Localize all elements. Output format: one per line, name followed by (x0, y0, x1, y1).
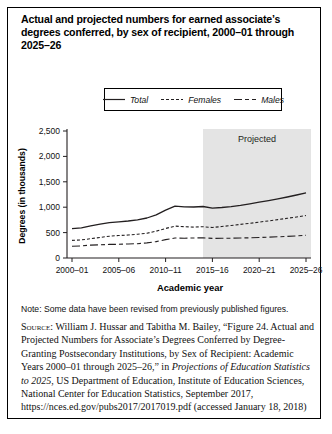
females-line-icon (160, 96, 184, 103)
figure-border: Actual and projected numbers for earned … (7, 7, 321, 419)
legend-label-total: Total (130, 95, 148, 105)
legend-box: Total Females Males (104, 88, 282, 111)
figure-page: Actual and projected numbers for earned … (0, 0, 332, 434)
source-citation: Source: William J. Hussar and Tabitha M.… (21, 320, 318, 414)
males-line-icon (233, 96, 257, 103)
figure-title: Actual and projected numbers for earned … (21, 13, 314, 52)
legend-item-total: Total (102, 95, 148, 105)
source-label: Source: (21, 321, 53, 332)
legend-label-males: Males (261, 95, 284, 105)
total-line-icon (102, 96, 126, 103)
source-rest: , US Department of Education, Institute … (21, 375, 307, 413)
legend-label-females: Females (188, 95, 221, 105)
x-axis-title: Academic year (68, 282, 312, 293)
note-text: Note: Some data have been revised from p… (21, 304, 317, 314)
legend-item-females: Females (160, 95, 221, 105)
legend-item-males: Males (233, 95, 284, 105)
y-axis-title: Degrees (in thousands) (17, 148, 27, 244)
